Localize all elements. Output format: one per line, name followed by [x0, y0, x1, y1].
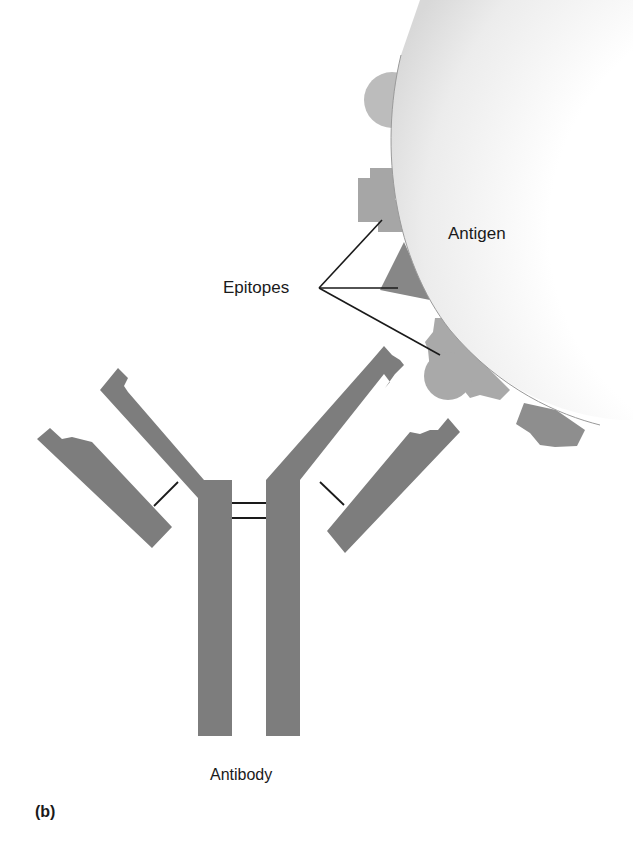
epitopes-label: Epitopes: [223, 278, 289, 298]
panel-label: (b): [35, 803, 55, 821]
heavy-chain-left: [100, 368, 232, 736]
light-chain-right: [327, 418, 460, 553]
disulfide-bonds: [154, 482, 344, 518]
heavy-light-bond-left: [154, 482, 178, 506]
antigen-body: [391, 0, 633, 420]
diagram-graphic: [0, 0, 633, 843]
antibody-label: Antibody: [210, 766, 272, 784]
antigen-label: Antigen: [448, 224, 506, 244]
heavy-chain-right: [266, 346, 404, 736]
antibody: [37, 346, 460, 736]
antibody-antigen-diagram: Antigen Epitopes Antibody (b): [0, 0, 633, 843]
heavy-light-bond-right: [320, 482, 344, 505]
epitope-round-lower: [424, 352, 472, 400]
